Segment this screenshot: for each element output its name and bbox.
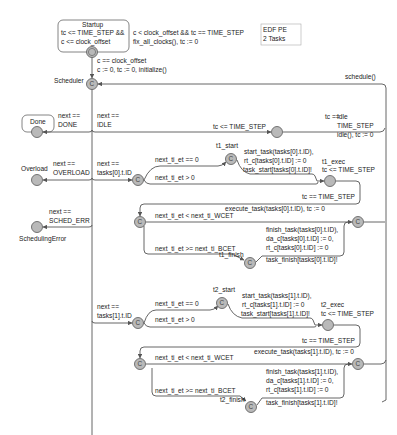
t1-start-update-2: rt_c[tasks[0].t.ID] := 0 [244,157,307,165]
t1-et-zero-guard: next_ti_et == 0 [155,156,199,164]
t2-start-update-2: rt_c[tasks[1].t.ID] := 0 [242,301,305,309]
startup-invariant-1: tc <= TIME_STEP && [61,29,125,37]
t1-exec-guard: tc == TIME_STEP [302,193,356,201]
svg-text:C: C [356,360,361,367]
scheduler-name: Scheduler [54,77,84,84]
location-t1-exec[interactable] [325,176,336,187]
to-t2-guard-2: tasks[1].t.ID [97,312,132,320]
location-t2-check[interactable]: C [135,359,146,370]
t2-finish-update-3: rt_c[tasks[1].t.ID] := 0 [266,386,329,394]
svg-text:C: C [220,299,225,306]
to-done-guard-1: next == [58,112,80,119]
idle-invariant: tc <= TIME_STEP [213,123,267,131]
location-startup[interactable]: Startup tc <= TIME_STEP && c <= clock_of… [58,20,129,58]
location-scheduling-error[interactable] [32,222,43,233]
t2-finish-sync: task_finish[tasks[1].t.ID]! [266,399,338,407]
location-t2-branch[interactable]: C [133,318,144,329]
t2-exec-name: t2_exec [321,301,345,309]
startup-scheduler-update: c := 0, tc := 0, initialize() [97,66,167,74]
edge-to-sched-err[interactable] [43,225,92,227]
startup-scheduler-guard: c == clock_offset [97,57,147,65]
location-t1-check[interactable]: C [135,217,146,228]
location-t1-finish[interactable]: C [245,258,256,269]
to-t1-guard-2: tasks[0].t.ID [97,169,132,177]
t2-exec-update: execute_task(tasks[1].t.ID), tc := 0 [254,348,354,356]
location-t2-join[interactable]: C [353,359,364,370]
t1-finish-update-1: finish_task(tasks[0].t.ID), [266,226,338,234]
to-t1-guard-1: next == [97,160,119,167]
t2-start-name: t2_start [213,286,235,294]
svg-text:C: C [136,176,141,183]
t2-start-sync: task_start[tasks[1].t.ID]! [241,310,310,318]
t1-et-pos-guard: next_ti_et > 0 [155,174,195,182]
t2-et-pos-guard: next_ti_et > 0 [155,316,195,324]
svg-text:C: C [248,259,253,266]
t1-finish-sync: task_finish[tasks[0].t.ID]! [266,256,338,264]
t1-exec-invariant: tc <= TIME_STEP [322,166,376,174]
t2-start-update-1: start_task(tasks[1].t.ID), [242,292,312,300]
svg-text:C: C [356,218,361,225]
t1-finish-name: t1_finish [219,251,244,259]
location-t2-finish[interactable]: C [246,402,257,413]
scheduling-error-name: SchedulingError [19,235,67,243]
t1-finish-update-3: rt_c[tasks[0].t.ID] := 0 [266,244,329,252]
t2-finish-update-1: finish_task(tasks[1].t.ID), [266,368,338,376]
t1-start-update-1: start_task(tasks[0].t.ID), [244,148,314,156]
note-box: EDF PE 2 Tasks [261,24,301,45]
to-sched-err-guard-1: next == [49,208,71,215]
svg-text:C: C [138,218,143,225]
startup-self-guard: c < clock_offset && tc == TIME_STEP [133,29,245,37]
to-t2-guard-1: next == [97,303,119,310]
overload-name: Overload [21,165,48,172]
svg-text:C: C [136,319,141,326]
t2-lt-wcet-guard: next_ti_et < next_ti_WCET [155,354,234,362]
initial-location-inner [88,48,95,55]
edge-t2-join-out[interactable] [364,360,386,364]
location-idle[interactable] [272,127,283,138]
t1-lt-wcet-guard: next_ti_et < next_ti_WCET [155,212,234,220]
done-name: Done [30,118,46,125]
location-t1-join[interactable]: C [353,217,364,228]
t1-exec-update: execute_task(tasks[0].t.ID), tc := 0 [225,205,325,213]
t2-ge-bcet-guard: next_ti_et >= next_ti_BCET [155,387,236,395]
idle-name: Idle [337,113,348,120]
svg-text:C: C [229,155,234,162]
svg-text:C: C [249,403,254,410]
t1-exec-name: t1_exec [322,158,346,166]
edge-to-t1[interactable] [92,178,132,180]
startup-invariant-2: c <= clock_offset [61,38,111,46]
svg-text:C: C [138,360,143,367]
t2-exec-guard: tc == TIME_STEP [302,337,356,345]
edge-to-idle[interactable] [92,130,271,132]
to-idle-guard-1: next == [97,112,119,119]
location-t2-start[interactable]: C [217,298,228,309]
edge-to-t2[interactable] [92,321,132,323]
t2-et-zero-guard: next_ti_et == 0 [155,300,199,308]
schedule-update: schedule() [345,73,376,81]
note-line1: EDF PE [263,26,287,33]
automaton-diagram: EDF PE 2 Tasks Startup tc <= TIME_STEP &… [0,0,397,435]
location-scheduler[interactable]: C [87,79,98,90]
location-done[interactable] [32,127,43,138]
edge-t2-et-pos[interactable] [144,323,316,327]
t2-finish-update-2: da_c[tasks[1].t.ID] := 0, [266,377,334,385]
to-idle-guard-2: IDLE [97,121,112,128]
idle-out-guard-2: TIME_STEP [337,122,374,130]
to-overload-guard-1: next == [53,160,75,167]
note-line2: 2 Tasks [263,35,286,42]
to-done-guard-2: DONE [58,121,78,128]
location-overload[interactable] [32,175,43,186]
location-t2-exec[interactable] [323,320,334,331]
edge-to-overload[interactable] [43,178,92,180]
t1-finish-update-2: da_c[tasks[0].t.ID] := 0, [266,235,334,243]
t1-start-name: t1_start [216,142,238,150]
location-t1-branch[interactable]: C [133,175,144,186]
svg-text:C: C [90,80,95,87]
t2-exec-invariant: tc <= TIME_STEP [321,310,375,318]
location-t1-start[interactable]: C [226,154,237,165]
t2-finish-name: t2_finish [220,396,245,404]
startup-self-update: fix_all_clocks(), tc := 0 [133,38,198,46]
to-overload-guard-2: OVERLOAD [53,169,90,176]
to-sched-err-guard-2: SCHED_ERR [49,217,90,225]
startup-name: Startup [82,21,104,29]
